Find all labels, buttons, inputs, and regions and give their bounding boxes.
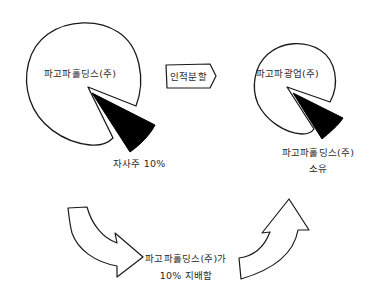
bottom-note-line1: 파고파홀딩스(주)가 xyxy=(140,251,232,265)
right-pie-label: 파고파광업(주) xyxy=(256,66,319,80)
split-tag-label: 인적분할 xyxy=(170,69,207,83)
bottom-note-line2: 10% 지배함 xyxy=(140,268,232,282)
left-wedge-label: 자사주 10% xyxy=(113,156,166,170)
curved-arrow-up-right xyxy=(239,199,309,279)
left-pie-label: 파고파홀딩스(주) xyxy=(44,66,116,80)
right-wedge-label-line1: 파고파홀딩스(주) xyxy=(278,145,358,159)
right-wedge-label-line2: 소유 xyxy=(278,161,358,175)
curved-arrow-down-right xyxy=(68,207,143,277)
